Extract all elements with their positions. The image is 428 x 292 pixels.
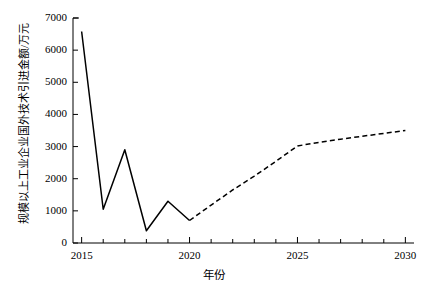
tick-marks-group bbox=[73, 18, 405, 243]
chart-figure: 规模以上工业企业国外技术引进金额/万元 年份 01000200030004000… bbox=[0, 0, 428, 292]
x-tick-label: 2030 bbox=[381, 249, 428, 261]
y-tick-label: 1000 bbox=[27, 204, 67, 216]
y-tick-label: 4000 bbox=[27, 107, 67, 119]
y-tick-label: 5000 bbox=[27, 75, 67, 87]
y-tick-label: 2000 bbox=[27, 172, 67, 184]
y-tick-label: 3000 bbox=[27, 140, 67, 152]
y-tick-label: 0 bbox=[27, 236, 67, 248]
x-tick-label: 2025 bbox=[273, 249, 321, 261]
x-tick-label: 2015 bbox=[58, 249, 106, 261]
y-tick-label: 6000 bbox=[27, 43, 67, 55]
series-line-0 bbox=[82, 32, 190, 231]
series-line-1 bbox=[190, 131, 406, 221]
axes-group bbox=[73, 18, 414, 243]
x-tick-label: 2020 bbox=[166, 249, 214, 261]
y-tick-label: 7000 bbox=[27, 11, 67, 23]
data-series-group bbox=[82, 32, 406, 231]
